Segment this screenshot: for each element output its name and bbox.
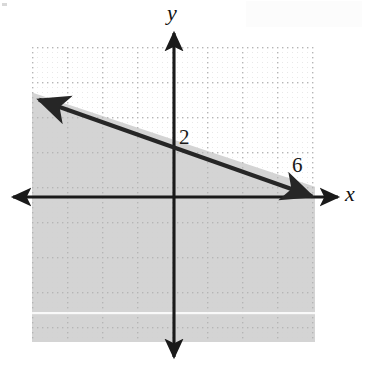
x-axis-label: x [345,183,355,205]
coordinate-plane [0,0,367,365]
linear-inequality-graph: y x 2 6 [0,0,367,365]
y-axis-label: y [167,2,177,24]
y-intercept-label: 2 [179,127,190,148]
x-intercept-label: 6 [292,155,303,176]
